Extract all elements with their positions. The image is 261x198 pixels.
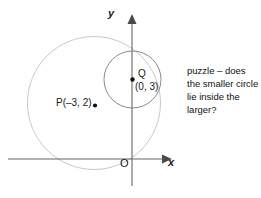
larger-circle (28, 37, 161, 170)
y-axis-label: y (108, 8, 114, 19)
point-p-dot (93, 103, 97, 107)
x-axis-label: x (168, 157, 174, 168)
point-q-label: Q (138, 69, 146, 79)
coordinate-geometry-figure: y x O Q (0, 3) P(–3, 2) puzzle – does th… (0, 0, 261, 198)
origin-label: O (120, 158, 129, 169)
puzzle-caption: puzzle – does the smaller circle lie ins… (187, 64, 261, 116)
point-q-coordinates: (0, 3) (135, 82, 158, 92)
point-p-label: P(–3, 2) (56, 98, 92, 108)
y-axis-arrowhead (128, 14, 137, 24)
